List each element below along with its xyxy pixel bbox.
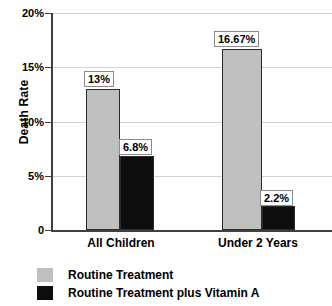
- legend-label-routine-plus-vitamin-a: Routine Treatment plus Vitamin A: [68, 286, 259, 300]
- bar-chart: Death Rate 20% 15% 10% 5% 0 13% 6.8% 16.…: [0, 0, 332, 306]
- bar-under-2-years-routine-treatment[interactable]: [222, 49, 262, 230]
- y-axis-tick-labels: 20% 15% 10% 5% 0: [0, 0, 44, 306]
- y-tick-label-10: 10%: [0, 117, 44, 128]
- legend-swatch-icon-routine-plus-vitamin-a: [37, 286, 53, 300]
- value-label-all-children-routine-treatment: 13%: [84, 71, 114, 87]
- legend-label-routine-treatment: Routine Treatment: [68, 268, 173, 282]
- category-label-under-2-years: Under 2 Years: [203, 236, 313, 250]
- value-label-under-2-years-routine-plus-vitamin-a: 2.2%: [260, 190, 293, 206]
- value-label-all-children-routine-plus-vitamin-a: 6.8%: [119, 139, 152, 155]
- x-axis-line: [51, 230, 332, 232]
- value-label-under-2-years-routine-treatment: 16.67%: [214, 31, 259, 47]
- y-tick-label-0: 0: [0, 225, 44, 236]
- bar-under-2-years-routine-plus-vitamin-a[interactable]: [262, 206, 295, 230]
- legend-item-routine-treatment[interactable]: Routine Treatment: [37, 266, 327, 284]
- y-tick-label-15: 15%: [0, 62, 44, 73]
- legend-item-routine-plus-vitamin-a[interactable]: Routine Treatment plus Vitamin A: [37, 284, 327, 302]
- category-label-all-children: All Children: [66, 236, 176, 250]
- y-tick-label-5: 5%: [0, 171, 44, 182]
- y-tick-label-20: 20%: [0, 8, 44, 19]
- legend: Routine Treatment Routine Treatment plus…: [37, 266, 327, 302]
- legend-swatch-icon-routine-treatment: [37, 268, 53, 282]
- bar-all-children-routine-plus-vitamin-a[interactable]: [120, 156, 154, 230]
- bar-all-children-routine-treatment[interactable]: [86, 89, 120, 230]
